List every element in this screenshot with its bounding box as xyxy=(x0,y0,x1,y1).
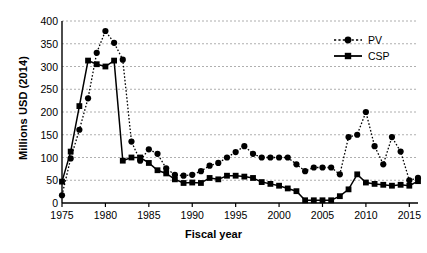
x-tick-label: 2010 xyxy=(346,209,386,221)
x-tick-label: 1995 xyxy=(216,209,256,221)
x-tick-label: 1980 xyxy=(85,209,125,221)
x-tick-label: 2005 xyxy=(302,209,342,221)
x-axis-tick-labels: 197519801985199019952000200520102015 xyxy=(0,0,427,253)
chart-container: Millions USD (2014) Fiscal year 05010015… xyxy=(0,0,427,253)
x-tick-label: 1975 xyxy=(42,209,82,221)
x-tick-label: 2000 xyxy=(259,209,299,221)
x-tick-label: 1990 xyxy=(172,209,212,221)
x-tick-label: 1985 xyxy=(129,209,169,221)
x-tick-label: 2015 xyxy=(389,209,427,221)
